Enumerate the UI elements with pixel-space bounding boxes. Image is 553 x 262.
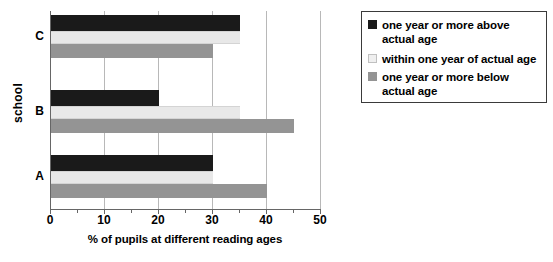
legend-label-within: within one year of actual age bbox=[382, 52, 536, 66]
y-axis-title: school bbox=[11, 58, 25, 148]
x-tick-label-20: 20 bbox=[143, 213, 173, 227]
x-axis-line bbox=[50, 209, 321, 210]
y-category-label-b: B bbox=[22, 105, 44, 117]
legend-label-below: one year or more below actual age bbox=[382, 70, 509, 98]
x-tick-label-0: 0 bbox=[35, 213, 65, 227]
x-axis-title: % of pupils at different reading ages bbox=[50, 233, 320, 245]
chart-legend: one year or more above actual age within… bbox=[361, 11, 547, 103]
x-tick-label-40: 40 bbox=[251, 213, 281, 227]
x-tick-label-10: 10 bbox=[89, 213, 119, 227]
x-tick-label-50: 50 bbox=[305, 213, 335, 227]
bar-a-above bbox=[51, 155, 213, 171]
legend-item-above[interactable]: one year or more above actual age bbox=[368, 18, 510, 46]
x-tick-label-30: 30 bbox=[197, 213, 227, 227]
legend-swatch-within-icon bbox=[368, 54, 377, 63]
bar-c-below bbox=[51, 44, 213, 58]
legend-item-within[interactable]: within one year of actual age bbox=[368, 52, 536, 66]
bar-b-within bbox=[51, 106, 240, 119]
legend-swatch-below-icon bbox=[368, 72, 377, 81]
legend-item-below[interactable]: one year or more below actual age bbox=[368, 70, 509, 98]
bar-b-above bbox=[51, 90, 159, 106]
y-category-label-c: C bbox=[22, 30, 44, 42]
y-axis-line bbox=[50, 11, 51, 210]
bar-c-within bbox=[51, 31, 240, 44]
bar-a-within bbox=[51, 171, 213, 184]
gridline-50 bbox=[320, 11, 321, 209]
legend-label-above: one year or more above actual age bbox=[382, 18, 510, 46]
plot-area bbox=[50, 11, 320, 209]
legend-swatch-above-icon bbox=[368, 20, 377, 29]
gridline-40 bbox=[266, 11, 267, 209]
y-category-label-a: A bbox=[22, 170, 44, 182]
bar-c-above bbox=[51, 15, 240, 31]
bar-a-below bbox=[51, 184, 267, 198]
bar-b-below bbox=[51, 119, 294, 133]
chart-figure: school C B A 01020304050 % of pupils at … bbox=[0, 0, 553, 262]
